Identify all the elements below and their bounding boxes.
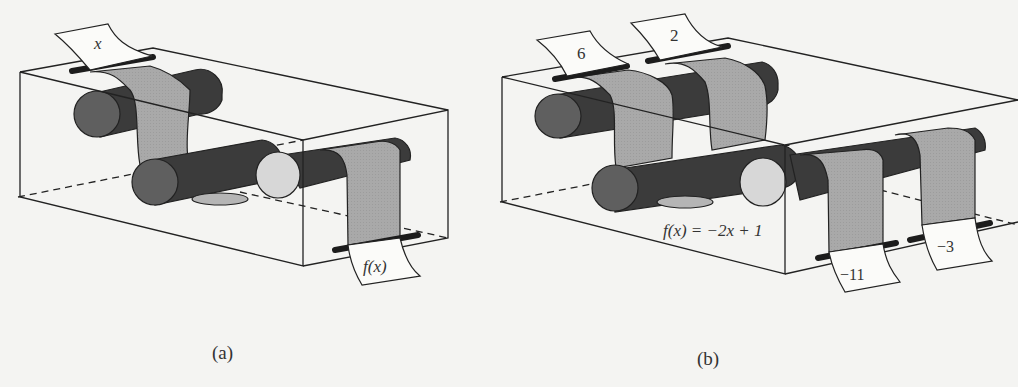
- panel-b-output-value-1: −11: [840, 266, 864, 283]
- panel-b-caption: (b): [697, 348, 719, 370]
- panel-b-input-value-2: 2: [670, 26, 679, 45]
- panel-a-caption: (a): [212, 342, 233, 364]
- panel-a-output-label: f(x): [363, 257, 387, 276]
- panel-b-input-ticket-2: 2: [631, 14, 722, 60]
- panel-b-output-value-2: −3: [937, 238, 954, 255]
- panel-b-input-value-1: 6: [577, 44, 586, 63]
- diagram-canvas: x f(x): [0, 0, 1018, 387]
- function-machine-figure: x f(x): [0, 0, 1018, 387]
- panel-a-input-label: x: [93, 34, 102, 53]
- panel-b-rule-label: f(x) = −2x + 1: [663, 221, 763, 240]
